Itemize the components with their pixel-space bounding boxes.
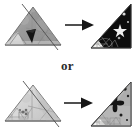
connector-label: or [0, 56, 135, 76]
paper-folding-figure: or [0, 0, 135, 134]
folding-option-row-b [0, 76, 135, 134]
before-shape-a [2, 0, 64, 58]
folded-paper-triangle-light-icon [2, 76, 64, 134]
folding-option-row-a [0, 0, 135, 58]
after-shape-a [88, 0, 135, 58]
before-shape-b [2, 76, 64, 134]
after-shape-b [88, 76, 135, 134]
result-triangle-gray-flower-icon [88, 76, 135, 134]
folded-paper-triangle-gray-icon [2, 0, 64, 58]
result-triangle-black-star-icon [88, 0, 135, 58]
